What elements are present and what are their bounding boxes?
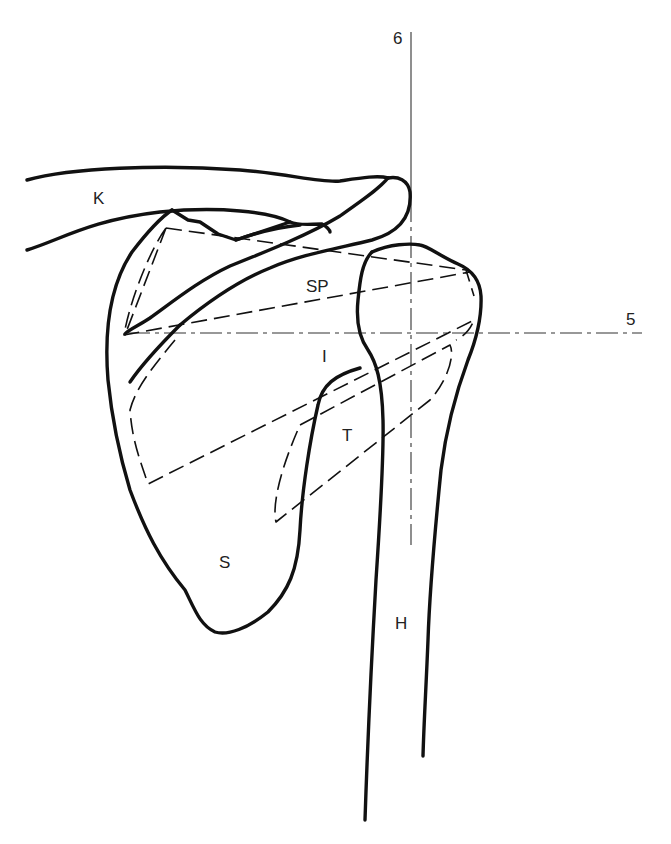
label-humerus: H: [395, 614, 407, 633]
clavicle: [27, 167, 388, 250]
label-scapula: S: [219, 553, 230, 572]
label-axis-6: 6: [393, 29, 402, 48]
muscle-lines: [124, 228, 474, 522]
label-axis-5: 5: [626, 310, 635, 329]
humerus: [357, 244, 481, 820]
reference-axes: [128, 32, 642, 545]
infraspinatus-outline: [130, 320, 474, 484]
shoulder-diagram: K SP I T S H 6 5: [0, 0, 671, 844]
label-teres-minor: T: [342, 426, 352, 445]
label-clavicle: K: [93, 189, 105, 208]
label-supraspinatus: SP: [306, 277, 329, 296]
label-infraspinatus: I: [322, 347, 327, 366]
scapula: [107, 210, 360, 633]
